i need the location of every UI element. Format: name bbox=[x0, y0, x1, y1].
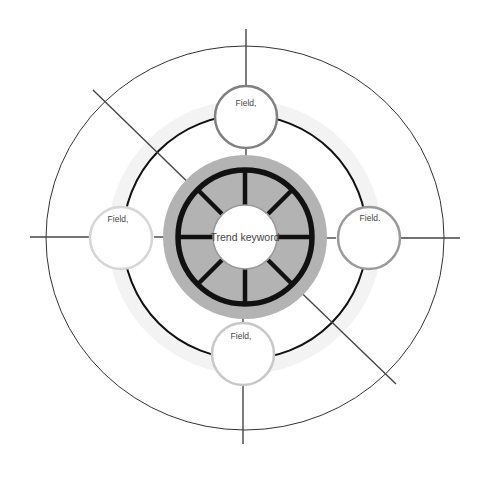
field-left-label: Field, bbox=[108, 214, 129, 224]
field-top: Field, bbox=[215, 86, 277, 148]
field-right: Field. bbox=[338, 207, 400, 269]
field-right-label: Field. bbox=[360, 213, 381, 223]
field-top-label: Field, bbox=[236, 98, 257, 108]
field-left: Field, bbox=[90, 207, 152, 269]
field-bottom-label: Field, bbox=[231, 331, 252, 341]
center-label: Trend keyword bbox=[210, 231, 279, 243]
field-bottom: Field, bbox=[212, 323, 274, 385]
trend-keyword-diagram: Trend keyword Field, Field, Field. Field… bbox=[0, 0, 485, 477]
